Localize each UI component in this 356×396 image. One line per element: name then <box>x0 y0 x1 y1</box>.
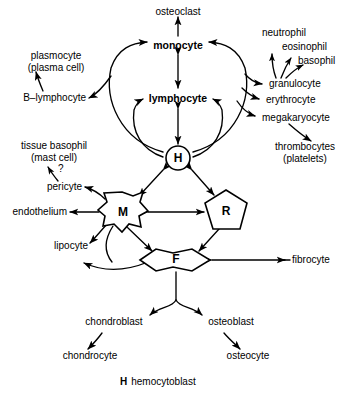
label-pericyte: pericyte <box>47 181 82 193</box>
diagram-canvas: osteoclast monocyte lymphocyte neutrophi… <box>0 0 356 396</box>
edge-m-lower-swoop <box>106 226 113 262</box>
label-neutrophil: neutrophil <box>262 27 306 39</box>
edge-f-to-chondroblast <box>150 300 176 315</box>
label-chondroblast: chondroblast <box>85 316 142 328</box>
label-osteoblast: osteoblast <box>208 316 254 328</box>
edge-megakaryocyte-to-thrombocytes <box>289 124 311 141</box>
label-basophil: basophil <box>298 55 335 67</box>
label-osteocyte: osteocyte <box>227 350 270 362</box>
label-plasmocyte-alt: (plasma cell) <box>28 62 85 74</box>
label-tissue-basophil-alt: (mast cell) <box>31 152 77 164</box>
label-thrombocytes: thrombocytes <box>275 141 335 153</box>
edge-m-to-lipocyte <box>90 224 107 243</box>
node-hemocytoblast <box>166 146 190 170</box>
edge-m-to-f <box>128 228 152 251</box>
edge-h-to-lymphocyte-right <box>193 99 222 157</box>
legend-text: hemocytoblast <box>131 376 195 387</box>
node-macrophage-m <box>98 192 148 232</box>
label-osteoclast: osteoclast <box>155 6 200 18</box>
label-lipocyte: lipocyte <box>54 240 88 252</box>
edge-granulocyte-to-basophil <box>286 65 303 78</box>
label-erythrocyte: erythrocyte <box>266 94 315 106</box>
label-endothelium: endothelium <box>13 206 67 218</box>
edge-f-to-osteoblast <box>176 300 202 315</box>
label-plasmocyte: plasmocyte <box>31 50 82 62</box>
node-fibroblast-f <box>140 249 210 271</box>
label-granulocyte: granulocyte <box>269 78 321 90</box>
label-lymphocyte: lymphocyte <box>149 93 207 105</box>
label-tissue-basophil: tissue basophil <box>21 140 87 152</box>
edge-h-to-lymphocyte-left <box>134 99 163 157</box>
label-b-lymphocyte: B–lymphocyte <box>23 92 86 104</box>
label-chondrocyte: chondrocyte <box>63 350 117 362</box>
label-monocyte: monocyte <box>153 40 203 52</box>
legend-key: H <box>120 376 127 387</box>
edge-h-to-r <box>192 170 214 195</box>
edge-granulocyte-to-neutrophil <box>272 54 276 78</box>
edge-f-to-lipocyte <box>84 262 148 269</box>
edge-pericyte-to-tissue-basophil <box>48 167 58 181</box>
edge-chondroblast-to-chondrocyte <box>88 333 102 349</box>
legend-hemocytoblast: Hhemocytoblast <box>120 376 196 387</box>
edge-osteoblast-to-osteocyte <box>224 333 240 349</box>
label-megakaryocyte: megakaryocyte <box>262 112 330 124</box>
label-fibrocyte: fibrocyte <box>292 254 330 266</box>
label-uncertain-link: ? <box>58 163 64 174</box>
edge-r-to-f <box>199 229 219 251</box>
edge-to-erythrocyte <box>242 88 259 99</box>
edge-b-lymphocyte-to-plasmocyte <box>36 72 43 91</box>
edge-to-b-lymphocyte <box>89 76 111 98</box>
label-thrombocytes-alt: (platelets) <box>283 153 327 165</box>
edge-m-to-pericyte <box>85 187 105 199</box>
edge-to-granulocyte <box>245 74 262 84</box>
node-reticular-r <box>205 190 247 229</box>
label-eosinophil: eosinophil <box>282 41 327 53</box>
